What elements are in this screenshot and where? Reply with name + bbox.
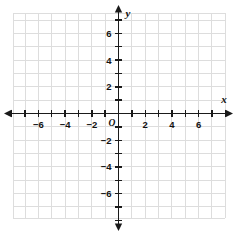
y-tick-label: −4 — [101, 161, 113, 172]
y-tick-label: −2 — [101, 135, 112, 146]
y-tick-label: 6 — [106, 28, 111, 39]
x-tick-label: 4 — [169, 119, 175, 130]
y-tick-label: 4 — [106, 55, 112, 66]
x-tick-label: −2 — [86, 119, 97, 130]
figure-background — [0, 0, 239, 235]
x-tick-label: 6 — [196, 119, 201, 130]
x-tick-label: −4 — [60, 119, 72, 130]
x-tick-label: −6 — [33, 119, 44, 130]
x-axis-label: x — [220, 93, 227, 105]
x-tick-label: 2 — [143, 119, 148, 130]
coordinate-plane-figure: −6−4−2246642−2−4−6 x y O — [0, 0, 239, 235]
coordinate-plane-svg: −6−4−2246642−2−4−6 x y O — [0, 0, 239, 235]
origin-label: O — [109, 118, 116, 128]
y-axis-label: y — [124, 7, 131, 19]
y-tick-label: −6 — [101, 188, 112, 199]
y-tick-label: 2 — [106, 81, 111, 92]
